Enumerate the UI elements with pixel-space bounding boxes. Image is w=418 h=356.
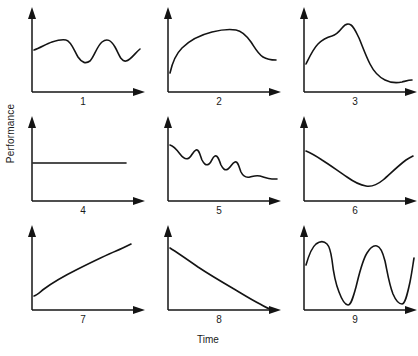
panel-8-curve xyxy=(170,248,273,310)
panel-label-8: 8 xyxy=(207,314,231,325)
panel-label-5: 5 xyxy=(207,205,231,216)
panel-2-curve xyxy=(170,30,276,73)
panel-2 xyxy=(164,7,281,96)
panel-label-7: 7 xyxy=(71,314,95,325)
panel-1-axes xyxy=(28,7,145,96)
panel-label-4: 4 xyxy=(71,205,95,216)
x-axis-label: Time xyxy=(168,334,248,345)
panel-3 xyxy=(300,7,417,96)
y-axis-label: Performance xyxy=(5,89,16,179)
panel-4 xyxy=(28,116,145,205)
panel-7-axes xyxy=(28,225,145,314)
panel-8-axes xyxy=(164,225,281,314)
panel-7-curve xyxy=(34,244,131,296)
panel-7 xyxy=(28,225,145,314)
panel-6-curve xyxy=(306,151,413,186)
panel-6-axes xyxy=(300,116,417,205)
panel-5-axes xyxy=(164,116,281,205)
panel-label-2: 2 xyxy=(207,96,231,107)
panel-9-curve xyxy=(306,242,414,305)
performance-over-time-figure: Performance Time 1 2 3 4 5 6 7 8 9 xyxy=(0,0,418,356)
panel-label-6: 6 xyxy=(343,205,367,216)
panel-label-3: 3 xyxy=(343,96,367,107)
panel-3-curve xyxy=(306,24,412,83)
panels-svg xyxy=(0,0,418,356)
panel-label-9: 9 xyxy=(343,314,367,325)
panel-8 xyxy=(164,225,281,314)
panel-9-axes xyxy=(300,225,417,314)
panel-2-axes xyxy=(164,7,281,96)
panel-1-curve xyxy=(34,40,140,63)
panel-6 xyxy=(300,116,417,205)
panel-label-1: 1 xyxy=(71,96,95,107)
panel-4-axes xyxy=(28,116,145,205)
panel-5 xyxy=(164,116,281,205)
panel-9 xyxy=(300,225,417,314)
panel-1 xyxy=(28,7,145,96)
panel-5-curve xyxy=(170,145,277,179)
